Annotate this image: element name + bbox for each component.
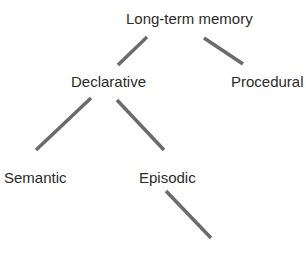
memory-tree-diagram: Long-term memory Declarative Procedural … (0, 0, 306, 261)
node-episodic: Episodic (139, 169, 196, 186)
node-declarative: Declarative (71, 73, 146, 90)
edge-declarative-semantic (36, 98, 91, 150)
edge-ltm-procedural (204, 38, 243, 64)
node-procedural: Procedural (231, 73, 304, 90)
edge-episodic-child (166, 191, 211, 238)
edge-declarative-episodic (117, 100, 164, 150)
node-semantic: Semantic (4, 169, 67, 186)
edge-ltm-declarative (118, 37, 147, 65)
node-long-term-memory: Long-term memory (126, 10, 253, 27)
